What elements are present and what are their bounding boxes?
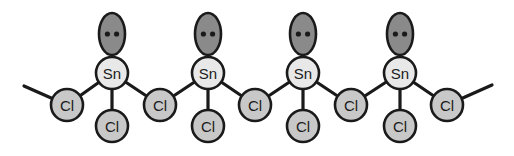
lone-pair-ellipse-icon (290, 13, 316, 55)
lone-pair-ellipse-icon (195, 13, 221, 55)
atom-label: Cl (344, 97, 358, 114)
atom-label: Cl (296, 118, 310, 135)
atom-cl-bridging: Cl (335, 89, 367, 121)
atom-cl-terminal: Cl (384, 110, 416, 142)
atom-sn-metal: Sn (96, 57, 128, 89)
tin-chloride-chain-diagram: SnSnSnSnClClClClClClClClCl (0, 0, 514, 156)
electron-dot-icon (201, 31, 206, 36)
atom-cl-bridging: Cl (51, 89, 83, 121)
atom-label: Sn (199, 65, 217, 82)
atom-label: Cl (153, 97, 167, 114)
atom-sn-metal: Sn (192, 57, 224, 89)
atom-label: Cl (201, 118, 215, 135)
lone-pair-group (387, 13, 413, 55)
atom-cl-bridging: Cl (144, 89, 176, 121)
electron-dot-icon (402, 31, 407, 36)
lone-pair-group (290, 13, 316, 55)
electron-dot-icon (296, 31, 301, 36)
lone-pairs-layer (99, 13, 413, 55)
lone-pair-group (195, 13, 221, 55)
figure-canvas: SnSnSnSnClClClClClClClClCl (0, 0, 514, 156)
atom-cl-terminal: Cl (192, 110, 224, 142)
atom-label: Cl (440, 97, 454, 114)
atom-label: Sn (391, 65, 409, 82)
atom-cl-bridging: Cl (239, 89, 271, 121)
electron-dot-icon (305, 31, 310, 36)
atom-sn-metal: Sn (384, 57, 416, 89)
atom-label: Cl (105, 118, 119, 135)
lone-pair-ellipse-icon (387, 13, 413, 55)
electron-dot-icon (105, 31, 110, 36)
electron-dot-icon (114, 31, 119, 36)
atom-label: Cl (60, 97, 74, 114)
atom-cl-terminal: Cl (287, 110, 319, 142)
atom-cl-bridging: Cl (431, 89, 463, 121)
atom-sn-metal: Sn (287, 57, 319, 89)
lone-pair-ellipse-icon (99, 13, 125, 55)
electron-dot-icon (210, 31, 215, 36)
atom-cl-terminal: Cl (96, 110, 128, 142)
atom-label: Cl (248, 97, 262, 114)
atom-label: Cl (393, 118, 407, 135)
lone-pair-group (99, 13, 125, 55)
electron-dot-icon (393, 31, 398, 36)
atom-label: Sn (294, 65, 312, 82)
atom-label: Sn (103, 65, 121, 82)
